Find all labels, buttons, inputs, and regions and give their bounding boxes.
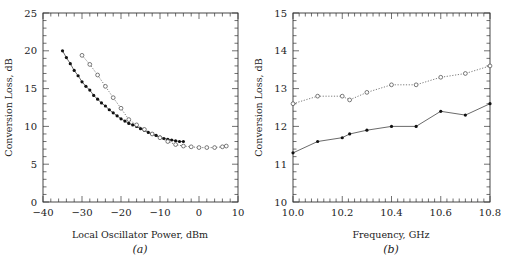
panel-caption: (a) [132, 243, 147, 256]
y-tick-label: 14 [274, 45, 287, 56]
data-point-filled [174, 139, 177, 142]
y-tick-label: 11 [274, 159, 287, 170]
data-point-filled [92, 94, 95, 97]
series-filled [61, 49, 185, 143]
data-point-open [439, 75, 443, 79]
y-tick-label: 13 [274, 83, 287, 94]
data-point-filled [291, 151, 294, 154]
data-point-open [340, 94, 344, 98]
data-point-filled [65, 56, 68, 59]
series-filled [291, 102, 491, 154]
data-point-filled [341, 136, 344, 139]
y-axis-label: Conversion Loss, dB [253, 58, 264, 156]
x-tick-label: 10.0 [282, 207, 304, 218]
data-point-filled [77, 74, 80, 77]
data-point-open [205, 146, 209, 150]
data-point-filled [464, 113, 467, 116]
data-point-open [463, 72, 467, 76]
plot-frame [293, 13, 490, 202]
data-point-filled [80, 80, 83, 83]
data-point-filled [88, 89, 91, 92]
data-point-open [88, 63, 92, 67]
x-tick-label: 10.2 [331, 207, 353, 218]
data-point-open [158, 136, 162, 140]
data-point-open [166, 140, 170, 144]
data-point-open [348, 98, 352, 102]
series-line [63, 51, 184, 142]
y-tick-label: 12 [274, 121, 287, 132]
tick-marks [43, 13, 238, 202]
y-tick-label: 15 [274, 8, 287, 19]
data-point-filled [415, 125, 418, 128]
data-point-filled [178, 140, 181, 143]
data-point-filled [69, 62, 72, 65]
data-point-filled [100, 101, 103, 104]
x-tick-label: 10.6 [430, 207, 452, 218]
data-point-open [213, 146, 217, 150]
data-point-filled [131, 123, 134, 126]
data-point-open [488, 64, 492, 68]
data-point-open [111, 96, 115, 100]
data-point-open [189, 145, 193, 149]
tick-marks [293, 13, 490, 202]
data-point-filled [119, 117, 122, 120]
data-point-open [365, 90, 369, 94]
x-tick-label: −40 [32, 207, 53, 218]
data-point-open [174, 143, 178, 147]
x-tick-label: 0 [196, 207, 202, 218]
y-tick-label: 25 [24, 8, 37, 19]
data-point-open [104, 84, 108, 88]
series-open [291, 64, 492, 106]
chart-b-conversion-loss-vs-frequency: 10.010.210.410.610.8101112131415Frequenc… [253, 8, 501, 257]
y-tick-label: 15 [24, 83, 37, 94]
y-tick-label: 10 [274, 197, 287, 208]
data-point-filled [127, 122, 130, 125]
data-point-open [224, 144, 228, 148]
data-point-open [80, 53, 84, 57]
data-point-open [414, 83, 418, 87]
data-point-filled [162, 137, 165, 140]
data-point-open [221, 145, 225, 149]
x-tick-label: −20 [110, 207, 131, 218]
x-tick-label: −10 [149, 207, 170, 218]
series-open [80, 53, 228, 149]
data-point-filled [104, 104, 107, 107]
y-axis-label: Conversion Loss, dB [3, 58, 14, 156]
y-tick-label: 0 [31, 197, 37, 208]
data-point-filled [316, 140, 319, 143]
panel-caption: (b) [383, 243, 399, 256]
data-point-filled [488, 102, 491, 105]
data-point-open [119, 106, 123, 110]
x-tick-label: 10.4 [380, 207, 402, 218]
y-tick-label: 5 [31, 159, 37, 170]
x-tick-label: 10 [232, 207, 245, 218]
data-point-open [197, 146, 201, 150]
figure: −40−30−20−100100510152025Local Oscillato… [0, 0, 506, 260]
data-point-filled [84, 85, 87, 88]
data-point-open [390, 83, 394, 87]
x-tick-label: −30 [71, 207, 92, 218]
data-point-open [150, 132, 154, 136]
data-point-filled [170, 138, 173, 141]
data-point-filled [348, 132, 351, 135]
x-axis-label: Frequency, GHz [352, 229, 429, 240]
data-point-filled [123, 120, 126, 123]
data-point-open [143, 128, 147, 132]
data-point-open [96, 73, 100, 77]
data-point-filled [139, 127, 142, 130]
data-point-filled [116, 114, 119, 117]
data-point-filled [439, 110, 442, 113]
data-point-filled [96, 98, 99, 101]
data-point-open [316, 94, 320, 98]
x-axis-label: Local Oscillator Power, dBm [72, 229, 208, 240]
x-tick-label: 10.8 [479, 207, 501, 218]
series-line [293, 104, 490, 153]
y-tick-label: 10 [24, 121, 37, 132]
y-tick-label: 20 [24, 45, 37, 56]
data-point-filled [108, 108, 111, 111]
data-point-filled [73, 69, 76, 72]
data-point-filled [182, 140, 185, 143]
data-point-open [291, 102, 295, 106]
data-point-filled [112, 111, 115, 114]
data-point-open [135, 123, 139, 127]
